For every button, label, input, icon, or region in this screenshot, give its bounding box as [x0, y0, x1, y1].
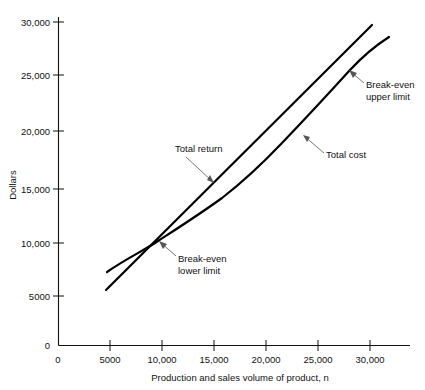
break-even-chart: 30,000 25,000 20,000 15,000 10,000 5000 …: [0, 0, 425, 390]
y-tick-label-5000: 5000: [29, 291, 50, 302]
arrowhead-total-cost: [303, 135, 310, 142]
x-tick-label-20000: 20,000: [251, 354, 280, 365]
arrowhead-break-even-lower: [159, 241, 167, 249]
y-tick-label-10000: 10,000: [21, 238, 50, 249]
x-tick-label-30000: 30,000: [355, 354, 384, 365]
arrowhead-total-return: [207, 175, 214, 183]
break-even-lower-limit-line2: lower limit: [178, 265, 221, 276]
x-tick-label-10000: 10,000: [147, 354, 176, 365]
annotation-break-even-upper-limit: Break-even upper limit: [349, 70, 415, 102]
y-axis-tick-labels: 30,000 25,000 20,000 15,000 10,000 5000 …: [21, 17, 50, 352]
x-tick-label-15000: 15,000: [199, 354, 228, 365]
x-tick-label-25000: 25,000: [303, 354, 332, 365]
break-even-upper-limit-line1: Break-even: [366, 79, 415, 90]
y-tick-label-30000: 30,000: [21, 17, 50, 28]
y-tick-label-0: 0: [45, 340, 50, 351]
chart-canvas: 30,000 25,000 20,000 15,000 10,000 5000 …: [0, 0, 425, 390]
series-label-total-return: Total return: [175, 143, 223, 154]
annotation-total-return: Total return: [175, 143, 223, 183]
arrowhead-break-even-upper: [349, 70, 357, 78]
annotation-break-even-lower-limit: Break-even lower limit: [159, 241, 227, 276]
y-tick-label-25000: 25,000: [21, 70, 50, 81]
x-tick-label-5000: 5000: [99, 354, 120, 365]
annotation-total-cost: Total cost: [303, 135, 366, 160]
break-even-lower-limit-line1: Break-even: [178, 253, 227, 264]
break-even-upper-limit-line2: upper limit: [366, 91, 410, 102]
y-axis-title: Dollars: [7, 170, 18, 200]
axes: [59, 17, 411, 346]
x-axis-tick-labels: 0 5000 10,000 15,000 20,000 25,000 30,00…: [55, 354, 384, 365]
x-tick-label-0: 0: [55, 354, 60, 365]
y-tick-label-20000: 20,000: [21, 126, 50, 137]
y-tick-label-15000: 15,000: [21, 184, 50, 195]
x-axis-title: Production and sales volume of product, …: [151, 372, 328, 383]
series-label-total-cost: Total cost: [326, 149, 366, 160]
